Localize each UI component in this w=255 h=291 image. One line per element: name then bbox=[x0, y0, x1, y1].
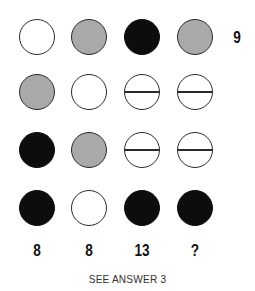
grey-circle-icon bbox=[71, 19, 107, 55]
black-circle-icon bbox=[19, 190, 55, 226]
split-circle-icon bbox=[177, 74, 213, 110]
grey-circle-icon bbox=[19, 74, 55, 110]
white-circle-icon bbox=[71, 74, 107, 110]
black-circle-icon bbox=[177, 190, 213, 226]
black-circle-icon bbox=[124, 190, 160, 226]
grey-circle-icon bbox=[71, 132, 107, 168]
split-circle-icon bbox=[124, 74, 160, 110]
split-circle-icon bbox=[124, 132, 160, 168]
white-circle-icon bbox=[19, 19, 55, 55]
black-circle-icon bbox=[124, 19, 160, 55]
column-total-4: ? bbox=[191, 242, 199, 259]
column-total-1: 8 bbox=[33, 242, 41, 259]
white-circle-icon bbox=[71, 190, 107, 226]
see-answer-caption: SEE ANSWER 3 bbox=[10, 273, 245, 285]
split-circle-icon bbox=[177, 132, 213, 168]
column-total-2: 8 bbox=[85, 242, 93, 259]
black-circle-icon bbox=[19, 132, 55, 168]
grey-circle-icon bbox=[177, 19, 213, 55]
column-total-3: 13 bbox=[134, 242, 149, 259]
row-total-1: 9 bbox=[233, 29, 241, 46]
